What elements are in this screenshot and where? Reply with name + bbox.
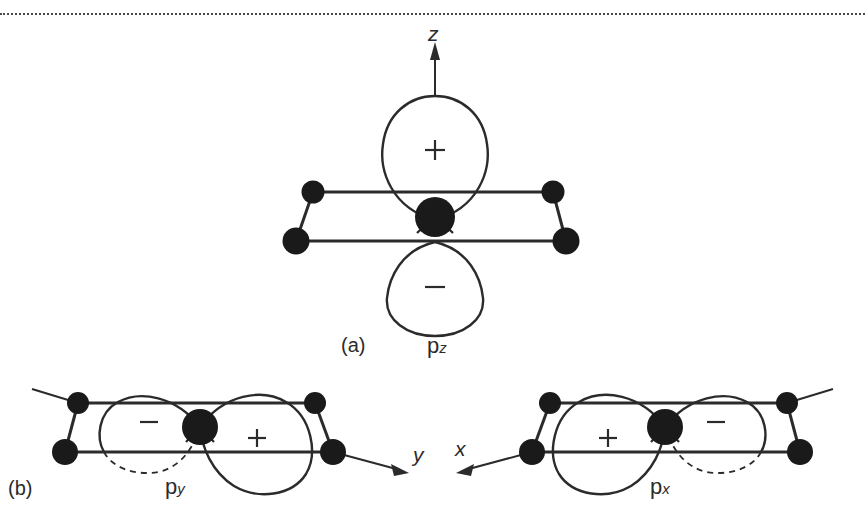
- orbital-label-py-base: p: [165, 474, 177, 499]
- diagram-panel-b-py: [0, 372, 430, 530]
- corner-atom: [787, 439, 813, 465]
- panel-label-a: (a): [341, 334, 365, 357]
- pz-orbital-svg: [255, 20, 615, 340]
- px-orbital-svg: [430, 372, 865, 530]
- corner-atom: [776, 392, 798, 414]
- corner-atom: [67, 392, 89, 414]
- sign-plus-left: [599, 429, 617, 447]
- corner-atom: [542, 181, 565, 204]
- diagram-panel-a-pz: [255, 20, 615, 340]
- diagram-panel-b-px: [430, 372, 865, 530]
- axis-label-x: x: [455, 437, 466, 461]
- orbital-label-py-subscript: y: [177, 480, 185, 497]
- orbital-label-px: px: [650, 474, 670, 500]
- figure-page: (a) (b) pz py px z y x: [0, 0, 865, 530]
- sign-plus-right: [248, 429, 266, 447]
- axis-label-z: z: [428, 22, 439, 46]
- py-orbital-svg: [0, 372, 430, 530]
- orbital-label-pz-base: p: [427, 333, 439, 358]
- corner-atom: [52, 439, 78, 465]
- central-atom: [182, 409, 218, 445]
- orbital-label-px-subscript: x: [662, 480, 670, 497]
- central-atom: [415, 197, 455, 237]
- corner-atom: [539, 392, 561, 414]
- panel-label-b: (b): [8, 477, 32, 500]
- central-atom: [647, 409, 683, 445]
- corner-atom: [320, 439, 346, 465]
- orbital-label-pz: pz: [427, 333, 447, 359]
- corner-atom: [283, 228, 310, 255]
- orbital-label-py: py: [165, 474, 185, 500]
- orbital-label-px-base: p: [650, 474, 662, 499]
- orbital-label-pz-subscript: z: [439, 339, 447, 356]
- corner-atom: [304, 392, 326, 414]
- corner-atom: [519, 439, 545, 465]
- axis-label-y: y: [413, 443, 424, 467]
- dotted-divider: [0, 13, 865, 15]
- lobe-minus-below: [387, 242, 483, 336]
- corner-atom: [553, 228, 580, 255]
- corner-atom: [302, 181, 325, 204]
